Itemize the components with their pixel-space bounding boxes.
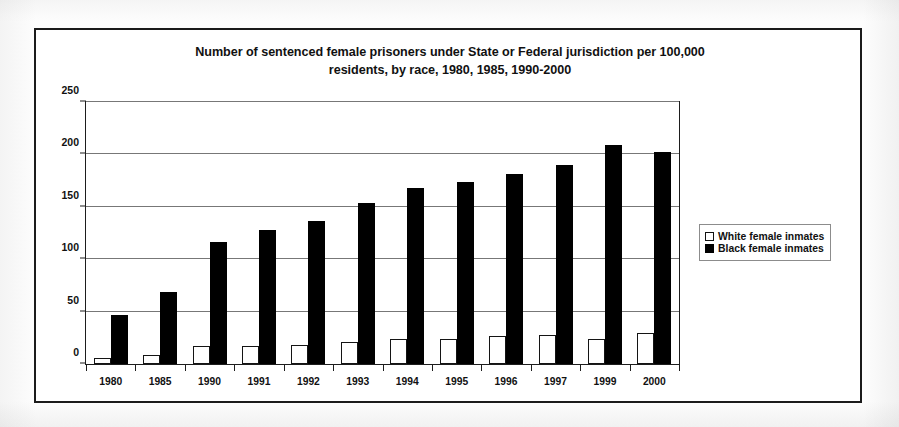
- x-axis-tick-mark: [580, 364, 581, 371]
- bar-group-1994: 1994: [383, 102, 432, 364]
- bar-1993-black: [358, 203, 375, 364]
- bar-1992-black: [308, 221, 325, 364]
- x-axis-tick-mark: [531, 364, 532, 371]
- bar-1992-white: [291, 345, 308, 364]
- bar-1980-black: [111, 315, 128, 364]
- x-axis-tick-label-2000: 2000: [643, 376, 666, 387]
- x-axis-tick-mark: [86, 364, 87, 371]
- x-axis-tick-mark: [185, 364, 186, 371]
- chart-frame: Number of sentenced female prisoners und…: [34, 28, 862, 403]
- x-axis-tick-mark: [432, 364, 433, 371]
- bar-group-1980: 1980: [86, 102, 135, 364]
- legend-entry-white: White female inmates: [705, 231, 824, 242]
- bar-1985-white: [143, 355, 160, 364]
- x-axis-tick-mark: [481, 364, 482, 371]
- x-axis-tick-mark: [135, 364, 136, 371]
- x-axis-tick-label-1993: 1993: [346, 376, 369, 387]
- x-axis-tick-label-1990: 1990: [198, 376, 221, 387]
- x-axis-tick-label-1991: 1991: [248, 376, 271, 387]
- scanned-page: Number of sentenced female prisoners und…: [0, 0, 899, 427]
- x-axis-tick-mark-end: [679, 364, 680, 371]
- chart-legend: White female inmatesBlack female inmates: [699, 224, 831, 261]
- bar-1995-black: [457, 182, 474, 364]
- x-axis-tick-label-1980: 1980: [99, 376, 122, 387]
- chart-title-line-1: Number of sentenced female prisoners und…: [76, 44, 824, 62]
- bar-group-1999: 1999: [580, 102, 629, 364]
- bar-group-1991: 1991: [234, 102, 283, 364]
- bar-1990-white: [193, 346, 210, 364]
- x-axis-tick-mark: [234, 364, 235, 371]
- y-axis-tick-label: 50: [67, 294, 79, 306]
- bar-group-1993: 1993: [333, 102, 382, 364]
- x-axis-tick-mark: [284, 364, 285, 371]
- bar-series-container: 1980198519901991199219931994199519961997…: [86, 102, 679, 364]
- bar-group-1995: 1995: [432, 102, 481, 364]
- legend-label: White female inmates: [718, 231, 824, 242]
- bar-2000-black: [654, 152, 671, 364]
- plot-area: 050100150200250 198019851990199119921993…: [85, 101, 680, 365]
- y-axis-tick-label: 250: [61, 84, 79, 96]
- bar-1999-black: [605, 145, 622, 364]
- y-axis-tick-label: 200: [61, 136, 79, 148]
- bar-group-1996: 1996: [481, 102, 530, 364]
- legend-label: Black female inmates: [718, 243, 824, 254]
- bar-1994-white: [390, 339, 407, 364]
- bar-1996-white: [489, 336, 506, 364]
- x-axis-tick-mark: [630, 364, 631, 371]
- bar-group-2000: 2000: [630, 102, 679, 364]
- bar-group-1992: 1992: [284, 102, 333, 364]
- bar-group-1985: 1985: [135, 102, 184, 364]
- x-axis-tick-label-1994: 1994: [396, 376, 419, 387]
- x-axis-tick-label-1997: 1997: [544, 376, 567, 387]
- bar-1995-white: [440, 339, 457, 364]
- x-axis-tick-mark: [383, 364, 384, 371]
- bar-1993-white: [341, 342, 358, 364]
- bar-1985-black: [160, 292, 177, 364]
- bar-1991-white: [242, 346, 259, 364]
- bar-1997-white: [539, 335, 556, 364]
- bar-1980-white: [94, 358, 111, 364]
- x-axis-tick-label-1992: 1992: [297, 376, 320, 387]
- y-axis-tick-label: 0: [73, 346, 79, 358]
- chart-title-line-2: residents, by race, 1980, 1985, 1990-200…: [76, 62, 824, 80]
- bar-2000-white: [637, 333, 654, 364]
- bar-1996-black: [506, 174, 523, 364]
- bar-group-1990: 1990: [185, 102, 234, 364]
- y-axis-tick-label: 100: [61, 241, 79, 253]
- black-square-icon: [705, 244, 714, 253]
- bar-1990-black: [210, 242, 227, 364]
- bar-1997-black: [556, 165, 573, 364]
- white-square-icon: [705, 232, 714, 241]
- y-axis-tick-label: 150: [61, 189, 79, 201]
- bar-1999-white: [588, 339, 605, 364]
- x-axis-tick-mark: [333, 364, 334, 371]
- bar-1994-black: [407, 188, 424, 364]
- bar-1991-black: [259, 230, 276, 364]
- bar-group-1997: 1997: [531, 102, 580, 364]
- x-axis-tick-label-1985: 1985: [149, 376, 172, 387]
- x-axis-tick-label-1996: 1996: [495, 376, 518, 387]
- legend-entry-black: Black female inmates: [705, 243, 824, 254]
- x-axis-tick-label-1999: 1999: [593, 376, 616, 387]
- x-axis-tick-label-1995: 1995: [445, 376, 468, 387]
- chart-title: Number of sentenced female prisoners und…: [76, 44, 824, 80]
